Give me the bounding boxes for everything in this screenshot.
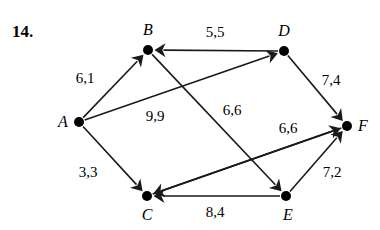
graph-figure: 14. ABCDEF 6,19,93,35,57,46,66,67,28,4 xyxy=(0,0,380,230)
graph-edge-f-c xyxy=(162,128,342,191)
problem-number: 14. xyxy=(12,22,33,42)
edge-weight-a-d: 9,9 xyxy=(146,108,165,125)
edge-weight-e-f: 7,2 xyxy=(323,164,342,181)
graph-node-a xyxy=(74,117,84,127)
graph-node-d xyxy=(279,46,289,56)
graph-edge-b-e xyxy=(152,54,275,184)
edge-weight-a-c: 3,3 xyxy=(79,164,98,181)
graph-node-f xyxy=(342,121,352,131)
edge-layer xyxy=(83,43,343,203)
edge-weight-a-b: 6,1 xyxy=(76,70,95,87)
node-label-d: D xyxy=(278,22,290,40)
node-label-b: B xyxy=(143,21,153,39)
arrowhead-d-f xyxy=(330,108,342,121)
node-label-c: C xyxy=(142,206,153,224)
node-label-a: A xyxy=(58,113,68,131)
graph-node-c xyxy=(142,191,152,201)
edge-weight-c-f: 6,6 xyxy=(279,120,298,137)
edge-weight-b-e: 6,6 xyxy=(223,102,242,119)
node-label-f: F xyxy=(358,117,368,135)
node-layer xyxy=(74,45,352,201)
directed-weighted-graph xyxy=(0,0,380,230)
edge-weight-e-c: 8,4 xyxy=(206,204,225,221)
graph-node-b xyxy=(143,45,153,55)
node-label-e: E xyxy=(283,206,293,224)
graph-node-e xyxy=(281,191,291,201)
arrowhead-e-f xyxy=(330,131,343,144)
edge-weight-d-b: 5,5 xyxy=(206,24,225,41)
edge-weight-d-f: 7,4 xyxy=(322,72,341,89)
graph-edge-d-b xyxy=(163,50,278,51)
